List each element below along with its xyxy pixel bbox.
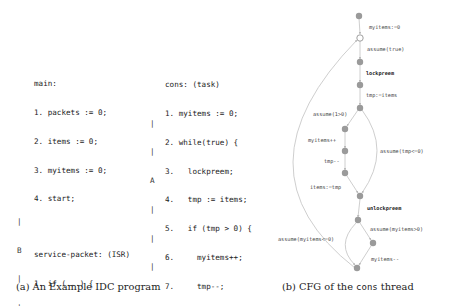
- edge-label: myitems:=0: [369, 24, 400, 31]
- edge-label: myitems++: [308, 137, 336, 144]
- caption-b: (b) CFG of the cons thread: [282, 281, 414, 292]
- edge-label: assume(tmp<=0): [380, 148, 424, 155]
- cfg-node: [357, 59, 363, 65]
- cfg-node: [357, 105, 363, 111]
- cfg-diagram: myitems:=0 assume(true) lockpreem tmp:=i…: [0, 0, 450, 306]
- cfg-edge-labels: myitems:=0 assume(true) lockpreem tmp:=i…: [278, 24, 424, 263]
- cfg-entry-node: [357, 35, 363, 41]
- cfg-node: [356, 13, 362, 19]
- edge-label: assume(1>0): [313, 111, 347, 117]
- cfg-node: [354, 265, 360, 271]
- cfg-node: [342, 126, 348, 132]
- edge-label: lockpreem: [366, 70, 394, 77]
- edge-label: items:=tmp: [310, 184, 341, 191]
- cfg-node: [357, 193, 363, 199]
- cfg-node: [342, 170, 348, 176]
- cfg-node: [355, 217, 361, 223]
- edge-label: unlockpreem: [367, 205, 401, 212]
- edge-label: assume(true): [367, 46, 404, 52]
- edge-label: myitems--: [371, 256, 399, 263]
- cfg-node: [357, 82, 363, 88]
- cfg-edges: [293, 18, 377, 268]
- edge-label: assume(myitems<=0): [278, 236, 334, 243]
- cfg-node: [342, 148, 348, 154]
- edge-label: tmp:=items: [366, 92, 397, 99]
- edge-label: assume(myitems>0): [370, 226, 423, 233]
- caption-a: (a) An Example IDC program: [16, 281, 161, 292]
- edge-label: tmp--: [324, 158, 340, 165]
- cfg-node: [370, 240, 376, 246]
